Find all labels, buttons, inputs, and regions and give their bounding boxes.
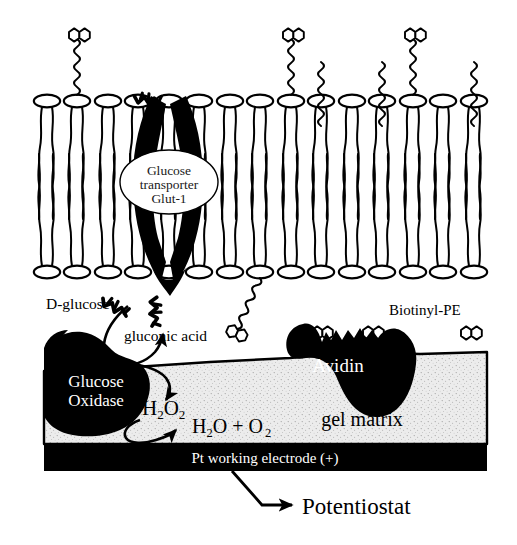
lipid-head-top — [400, 95, 426, 219]
glucose-oxidase-label-line-2: Oxidase — [68, 391, 124, 410]
lipid-head-bottom — [95, 154, 121, 278]
lipid-head-bottom — [308, 154, 334, 278]
lipid-head-bottom — [339, 154, 365, 278]
lipid-head-bottom — [217, 154, 243, 278]
biotinyl-pe-upper-group — [69, 28, 426, 95]
lipid-head-top — [339, 95, 365, 219]
lipid-head-bottom — [64, 154, 90, 278]
lipid-head-top — [64, 95, 90, 219]
glut1-label-line-1: Glucose — [147, 163, 191, 178]
avidin-label: Avidin — [312, 355, 364, 376]
biotinyl-pe-upper — [405, 28, 426, 95]
lipid-head-bottom — [369, 154, 395, 278]
glucose-oxidase-enzyme: Glucose Oxidase — [44, 330, 150, 436]
biotinyl-pe-label: Biotinyl-PE — [389, 302, 461, 318]
glut1-label-line-2: transporter — [140, 177, 199, 192]
lipid-head-top — [34, 95, 60, 219]
lipid-head-bottom — [400, 154, 426, 278]
lipid-head-top — [217, 95, 243, 219]
lipid-head-bottom — [430, 154, 456, 278]
glut1-label-line-3: Glut-1 — [151, 191, 186, 206]
lipid-head-top — [308, 95, 334, 219]
lipid-head-bottom — [34, 154, 60, 278]
lipid-head-top — [430, 95, 456, 219]
lipid-head-top — [278, 95, 304, 219]
lipid-bilayer — [34, 95, 487, 279]
bilayer-inner-leaflet — [34, 154, 487, 278]
lipid-head-bottom — [278, 154, 304, 278]
gluconic-acid-molecule-icon — [143, 297, 167, 328]
lipid-head-bottom — [461, 154, 487, 278]
biosensor-schematic: Glucose transporter Glut-1 gel matrix Pt… — [0, 0, 517, 545]
products-sub-2b: 2 — [265, 426, 271, 440]
gluconic-acid-label: gluconic acid — [124, 327, 207, 344]
products-o2: O — [248, 415, 262, 437]
biotinyl-pe-lower-free — [225, 274, 271, 343]
lipid-head-top — [369, 95, 395, 219]
biotinyl-pe-upper — [283, 28, 304, 95]
h2o2-h: H — [142, 396, 157, 420]
h2o2-formula: H2O2 — [142, 396, 185, 422]
pt-working-electrode: Pt working electrode (+) — [44, 444, 487, 471]
products-h: H — [192, 415, 206, 437]
arrow-electrode-to-potentiostat — [232, 471, 292, 505]
lipid-head-top — [95, 95, 121, 219]
glucose-oxidase-label-line-1: Glucose — [68, 372, 124, 391]
lipid-head-bottom — [247, 154, 273, 278]
h2o2-sub-2b: 2 — [179, 407, 186, 422]
d-glucose-label: D-glucose — [46, 295, 110, 312]
h2o2-o: O — [164, 396, 179, 420]
pt-electrode-label: Pt working electrode (+) — [191, 450, 338, 467]
biotinyl-pe-upper — [69, 28, 90, 95]
products-plus: + — [227, 415, 248, 437]
products-o: O — [213, 415, 227, 437]
products-formula: H2O + O2 — [192, 415, 271, 440]
potentiostat-label: Potentiostat — [302, 494, 411, 519]
lipid-head-top — [461, 95, 487, 219]
figure-canvas: Glucose transporter Glut-1 gel matrix Pt… — [0, 0, 517, 545]
lipid-head-top — [247, 95, 273, 219]
potentiostat-group: Potentiostat — [232, 471, 411, 519]
